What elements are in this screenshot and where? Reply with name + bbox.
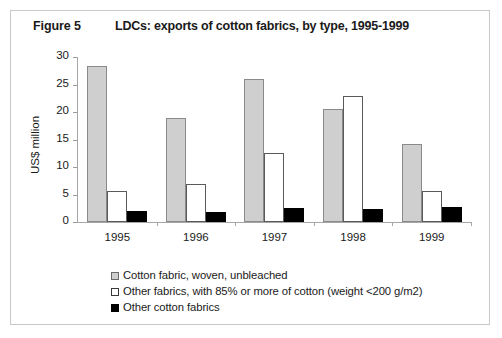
x-axis-tick-mark <box>471 222 472 226</box>
bar-group <box>78 57 157 222</box>
bar-group <box>235 57 314 222</box>
y-axis-ticks: 051015202530 <box>31 57 77 222</box>
bar[interactable] <box>442 207 462 222</box>
figure-frame: Figure 5 LDCs: exports of cotton fabrics… <box>10 10 490 325</box>
y-axis-tick-label: 0 <box>63 214 69 226</box>
bar[interactable] <box>363 209 383 222</box>
y-axis-tick-label: 15 <box>56 132 69 144</box>
legend-swatch-icon <box>111 288 119 296</box>
bar[interactable] <box>87 66 107 222</box>
legend-item-label: Other fabrics, with 85% or more of cotto… <box>123 285 422 297</box>
legend-item[interactable]: Cotton fabric, woven, unbleached <box>111 269 471 284</box>
legend-item-label: Other cotton fabrics <box>123 301 220 313</box>
y-axis-tick-label: 20 <box>56 104 69 116</box>
legend-swatch-icon <box>111 272 119 280</box>
bar[interactable] <box>127 211 147 222</box>
bars-area <box>78 57 471 222</box>
x-axis-tick-mark <box>235 222 236 226</box>
legend-item-label: Cotton fabric, woven, unbleached <box>123 269 287 281</box>
bar[interactable] <box>107 191 127 222</box>
x-axis-label: 1995 <box>78 231 157 243</box>
y-axis-tick-label: 25 <box>56 77 69 89</box>
bar[interactable] <box>244 79 264 222</box>
y-axis-tick-label: 10 <box>56 159 69 171</box>
y-axis-tick-label: 30 <box>56 49 69 61</box>
legend-swatch-icon <box>111 304 119 312</box>
chart-plot-region: US$ million 051015202530 199519961997199… <box>11 11 489 324</box>
x-axis-tick-mark <box>314 222 315 226</box>
x-axis-label: 1996 <box>157 231 236 243</box>
bar[interactable] <box>323 109 343 222</box>
legend-item[interactable]: Other fabrics, with 85% or more of cotto… <box>111 285 471 300</box>
bar[interactable] <box>422 191 442 222</box>
bar-group <box>392 57 471 222</box>
bar[interactable] <box>264 153 284 222</box>
bar[interactable] <box>343 96 363 223</box>
bar[interactable] <box>284 208 304 222</box>
bar[interactable] <box>166 118 186 222</box>
bar[interactable] <box>206 212 226 222</box>
bar[interactable] <box>402 144 422 222</box>
y-axis-tick-label: 5 <box>63 187 69 199</box>
x-axis-label: 1997 <box>235 231 314 243</box>
legend-item[interactable]: Other cotton fabrics <box>111 301 471 316</box>
x-axis-tick-mark <box>157 222 158 226</box>
bar-group <box>314 57 393 222</box>
x-axis-line <box>77 222 471 223</box>
x-axis-label: 1999 <box>392 231 471 243</box>
chart-legend: Cotton fabric, woven, unbleachedOther fa… <box>111 269 471 317</box>
x-axis-label: 1998 <box>314 231 393 243</box>
x-axis-tick-mark <box>392 222 393 226</box>
bar-group <box>157 57 236 222</box>
bar[interactable] <box>186 184 206 222</box>
